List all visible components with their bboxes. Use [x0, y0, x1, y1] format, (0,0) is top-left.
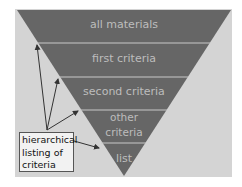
band-other-criteria-line2: criteria: [94, 126, 154, 138]
arrow-to-second-criteria: [47, 79, 58, 130]
callout-line: criteria: [22, 159, 71, 172]
arrow-to-other-criteria: [47, 111, 78, 130]
arrow-to-list: [74, 141, 99, 148]
band-all-materials: all materials: [60, 18, 188, 31]
arrow-to-first-criteria: [37, 45, 47, 130]
callout-line: hierarchical: [22, 134, 71, 147]
band-second-criteria: second criteria: [60, 85, 188, 98]
band-first-criteria: first criteria: [60, 52, 188, 65]
callout-box: hierarchical listing of criteria: [19, 132, 74, 172]
band-other-criteria-line1: other: [94, 111, 154, 123]
callout-line: listing of: [22, 147, 71, 160]
band-list: list: [104, 152, 144, 165]
